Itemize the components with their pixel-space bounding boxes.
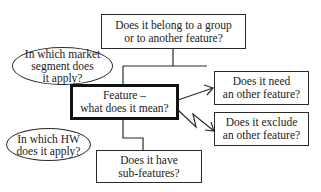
- question-hardware: In which HW does it apply?: [6, 128, 91, 161]
- question-text-line: it apply?: [43, 72, 83, 84]
- question-text-line: Does it belong to a group: [115, 19, 232, 32]
- question-text-line: In which market: [25, 48, 100, 60]
- question-requires-feature: Does it need an other feature?: [214, 71, 309, 105]
- question-group-membership: Does it belong to a group or to another …: [101, 14, 246, 49]
- feature-title: Feature –: [103, 89, 146, 102]
- feature-definition-central: Feature – what does it mean?: [70, 84, 179, 120]
- feature-subtitle: what does it mean?: [80, 102, 168, 115]
- question-text-line: sub-features?: [118, 167, 179, 180]
- question-market-segment: In which market segment does it apply?: [12, 47, 113, 85]
- question-excludes-feature: Does it exclude an other feature?: [214, 112, 309, 146]
- question-text-line: Does it need: [233, 75, 290, 88]
- question-text-line: does it apply?: [17, 145, 81, 157]
- question-text-line: Does it exclude: [226, 116, 298, 129]
- question-text-line: an other feature?: [223, 88, 300, 101]
- feature-diagram: Does it belong to a group or to another …: [0, 0, 321, 192]
- question-text-line: Does it have: [120, 154, 177, 167]
- question-text-line: an other feature?: [223, 129, 300, 142]
- question-text-line: or to another feature?: [124, 32, 223, 45]
- question-text-line: In which HW: [17, 133, 80, 145]
- question-sub-features: Does it have sub-features?: [96, 150, 202, 183]
- question-text-line: segment does: [31, 60, 93, 72]
- arrow-excludes-zigzag: [178, 110, 214, 131]
- connector-central-to-subfeatures: [123, 119, 143, 150]
